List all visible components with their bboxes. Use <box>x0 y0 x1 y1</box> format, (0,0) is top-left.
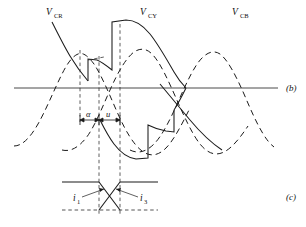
output-voltage-negative-notch <box>148 110 174 151</box>
waveform-figure: V CR V CY V CB α u i 1 i 3 (b) (c) <box>0 0 306 227</box>
label-vcr-base: V <box>46 7 53 17</box>
label-i3-subscript: 3 <box>144 198 147 205</box>
label-part-c: (c) <box>286 192 296 202</box>
label-i1: i 1 <box>73 193 80 205</box>
label-alpha: α <box>86 109 91 119</box>
label-i1-base: i <box>73 193 76 203</box>
label-i1-subscript: 1 <box>77 198 80 205</box>
output-voltage-segment-incoming <box>112 20 186 88</box>
label-vcr-subscript: CR <box>54 12 63 19</box>
label-vcb: V CB <box>232 7 249 19</box>
vcb-sine-curve <box>130 52 274 152</box>
label-vcy-subscript: CY <box>148 12 157 19</box>
label-part-b: (b) <box>286 83 297 93</box>
label-vcr: V CR <box>46 7 63 19</box>
label-vcy: V CY <box>140 7 157 19</box>
output-voltage-segment-outgoing <box>52 22 88 81</box>
label-vcb-base: V <box>232 7 239 17</box>
label-vcb-subscript: CB <box>240 12 249 19</box>
label-vcy-base: V <box>140 7 147 17</box>
figure-root: V CR V CY V CB α u i 1 i 3 (b) (c) <box>0 0 306 227</box>
output-voltage-negative-segment-a <box>174 88 186 110</box>
output-voltage-commutation-notch <box>88 54 112 81</box>
vcr-sine-curve <box>14 53 190 154</box>
label-i3-base: i <box>140 193 143 203</box>
output-voltage-descending-tail <box>160 84 222 150</box>
label-i3: i 3 <box>140 193 147 205</box>
leader-i3 <box>116 188 138 197</box>
vcy-sine-curve <box>62 49 248 154</box>
label-overlap: u <box>106 109 110 119</box>
leader-i1 <box>82 188 104 197</box>
